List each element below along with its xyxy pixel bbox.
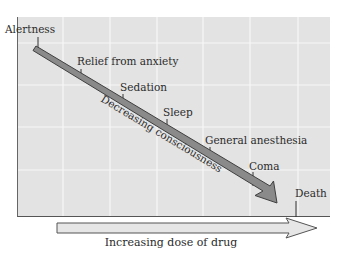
label-sedation: Sedation (120, 82, 167, 93)
label-death: Death (295, 188, 327, 199)
diagram-graphics: Decreasing consciousness (0, 0, 342, 260)
label-coma: Coma (249, 161, 280, 172)
label-alertness: Alertness (5, 24, 55, 35)
x-axis-label: Increasing dose of drug (0, 236, 342, 249)
increasing-dose-arrow (57, 218, 317, 238)
label-sleep: Sleep (163, 107, 193, 118)
label-general-anesthesia: General anesthesia (205, 135, 307, 146)
label-relief-from-anxiety: Relief from anxiety (77, 56, 178, 67)
